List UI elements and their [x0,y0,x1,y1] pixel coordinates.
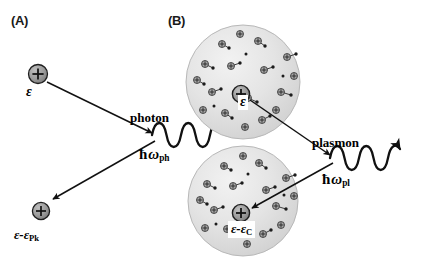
lower-plasma-sphere [188,146,298,256]
panel-a-incoming-energy-label: ε [26,84,32,100]
panel-a-label: (A) [11,13,28,28]
panel-b-label: (B) [168,13,185,28]
plasmon-label: plasmon [312,135,359,151]
panel-a-outgoing-energy-subscript: Pk [29,233,39,243]
panel-b-outgoing-energy-subscript: C [246,227,252,237]
panel-b-graphics [186,25,400,256]
plasmon-energy-label: ħωpl [322,171,350,188]
panel-a-outgoing-energy-label: ε-εPk [14,227,39,243]
panel-a-incoming-particle [29,65,48,84]
panel-b-outgoing-particle [232,204,249,221]
panel-b-outgoing-energy-label: ε-εC [228,221,255,238]
photon-omega-symbol: ω [147,146,159,162]
plasmon-omega-symbol: ω [330,171,342,187]
panel-a-outgoing-energy-base: ε-ε [14,227,29,242]
panel-a-outgoing-particle [32,202,49,219]
photon-label: photon [130,110,169,126]
plasmon-energy-subscript: pl [342,178,350,188]
photon-energy-subscript: ph [159,153,169,163]
panel-b-outgoing-energy-base: ε-ε [231,221,246,236]
physics-figure: (A) (B) ε ε-εPk photon ħωph ε ε-εC plasm… [0,0,422,277]
photon-energy-label: ħωph [139,146,170,163]
panel-b-incoming-energy-label: ε [238,95,248,110]
